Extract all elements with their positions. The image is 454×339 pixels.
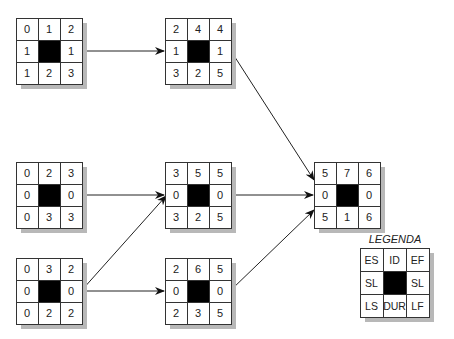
legend-title: LEGENDA: [360, 233, 430, 245]
center-block: [38, 184, 61, 207]
activity-node-6: 2 6 5 0 0 2 3 5: [165, 258, 231, 324]
dur-cell: 2: [187, 62, 210, 85]
dur-cell: 2: [187, 206, 210, 229]
id-cell: 2: [38, 162, 61, 185]
es-cell: 2: [165, 258, 188, 281]
sl-right-cell: 1: [209, 40, 232, 63]
es-cell: 5: [314, 162, 337, 185]
sl-right-cell: 0: [209, 280, 232, 303]
sl-left-cell: 0: [165, 184, 188, 207]
lf-cell: 5: [209, 206, 232, 229]
activity-node-2: 0 2 3 0 0 0 3 3: [16, 162, 82, 228]
legend-sl-right: SL: [406, 271, 430, 295]
legend-ef: EF: [406, 248, 430, 272]
sl-left-cell: 0: [16, 184, 39, 207]
ls-cell: 3: [165, 62, 188, 85]
ls-cell: 1: [16, 62, 39, 85]
sl-right-cell: 1: [60, 40, 83, 63]
ef-cell: 5: [209, 162, 232, 185]
ef-cell: 2: [60, 258, 83, 281]
es-cell: 0: [16, 162, 39, 185]
id-cell: 3: [38, 258, 61, 281]
sl-left-cell: 0: [165, 280, 188, 303]
activity-node-4: 2 4 4 1 1 3 2 5: [165, 18, 231, 84]
legend-es: ES: [360, 248, 384, 272]
ef-cell: 5: [209, 258, 232, 281]
lf-cell: 2: [60, 302, 83, 325]
sl-left-cell: 0: [314, 184, 337, 207]
center-block: [336, 184, 359, 207]
arrow-n4-n7: [231, 51, 314, 180]
lf-cell: 5: [209, 62, 232, 85]
center-block: [187, 184, 210, 207]
dur-cell: 1: [336, 206, 359, 229]
activity-node-3: 0 3 2 0 0 0 2 2: [16, 258, 82, 324]
activity-node-7: 5 7 6 0 0 5 1 6: [314, 162, 380, 228]
dur-cell: 2: [38, 62, 61, 85]
lf-cell: 3: [60, 62, 83, 85]
id-cell: 4: [187, 18, 210, 41]
lf-cell: 6: [358, 206, 381, 229]
legend-id: ID: [383, 248, 407, 272]
dur-cell: 3: [38, 206, 61, 229]
id-cell: 6: [187, 258, 210, 281]
ls-cell: 0: [16, 206, 39, 229]
sl-right-cell: 0: [60, 184, 83, 207]
lf-cell: 5: [209, 302, 232, 325]
center-block: [38, 280, 61, 303]
id-cell: 7: [336, 162, 359, 185]
ef-cell: 2: [60, 18, 83, 41]
sl-right-cell: 0: [358, 184, 381, 207]
legend-dur: DUR: [383, 294, 407, 318]
ls-cell: 3: [165, 206, 188, 229]
dur-cell: 3: [187, 302, 210, 325]
es-cell: 2: [165, 18, 188, 41]
ls-cell: 5: [314, 206, 337, 229]
sl-right-cell: 0: [209, 184, 232, 207]
center-block: [187, 280, 210, 303]
id-cell: 5: [187, 162, 210, 185]
dur-cell: 2: [38, 302, 61, 325]
activity-node-5: 3 5 5 0 0 3 2 5: [165, 162, 231, 228]
arrow-n3-n5: [82, 196, 166, 290]
legend-center-block: [383, 271, 407, 295]
sl-right-cell: 0: [60, 280, 83, 303]
ef-cell: 6: [358, 162, 381, 185]
es-cell: 3: [165, 162, 188, 185]
ls-cell: 0: [16, 302, 39, 325]
arrow-n6-n7: [231, 210, 314, 290]
center-block: [38, 40, 61, 63]
lf-cell: 3: [60, 206, 83, 229]
legend-ls: LS: [360, 294, 384, 318]
sl-left-cell: 1: [16, 40, 39, 63]
ls-cell: 2: [165, 302, 188, 325]
legend-lf: LF: [406, 294, 430, 318]
activity-node-1: 0 1 2 1 1 1 2 3: [16, 18, 82, 84]
sl-left-cell: 1: [165, 40, 188, 63]
es-cell: 0: [16, 18, 39, 41]
legend-node: ES ID EF SL SL LS DUR LF: [360, 248, 429, 317]
es-cell: 0: [16, 258, 39, 281]
center-block: [187, 40, 210, 63]
sl-left-cell: 0: [16, 280, 39, 303]
ef-cell: 4: [209, 18, 232, 41]
legend-sl-left: SL: [360, 271, 384, 295]
ef-cell: 3: [60, 162, 83, 185]
id-cell: 1: [38, 18, 61, 41]
